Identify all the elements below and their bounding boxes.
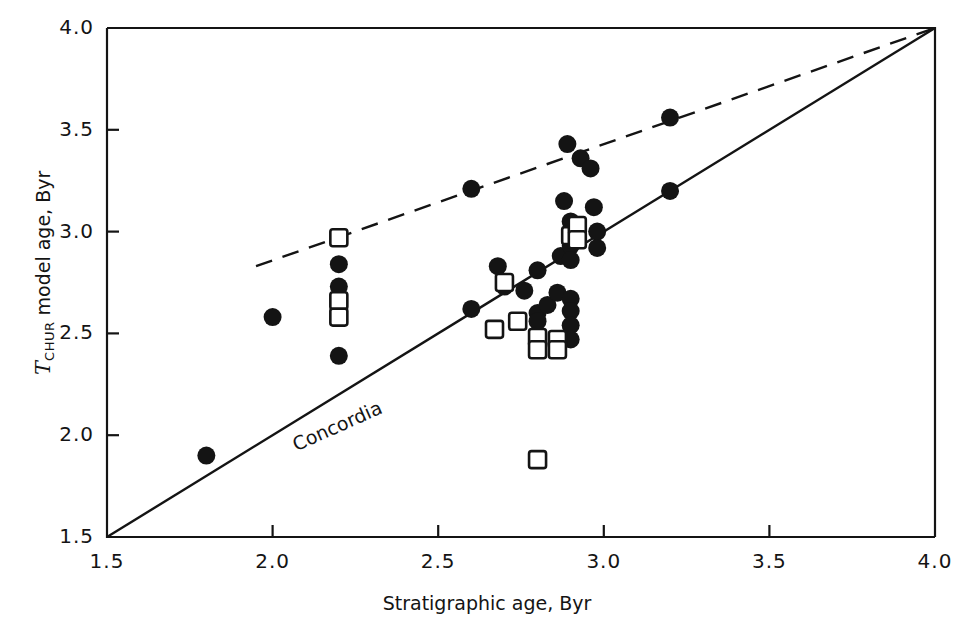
data-point-circle [582, 159, 600, 177]
data-point-circle [562, 251, 580, 269]
data-point-circle [330, 255, 348, 273]
data-point-square [330, 309, 347, 326]
data-point-circle [661, 182, 679, 200]
data-point-circle [197, 447, 215, 465]
data-point-circle [661, 109, 679, 127]
plot-canvas [0, 0, 974, 630]
data-point-circle [264, 308, 282, 326]
y-axis-label-wrap: TCHUR model age, Byr [31, 43, 57, 503]
data-point-circle [529, 312, 547, 330]
x-tick-label: 1.5 [67, 549, 147, 573]
data-point-circle [515, 282, 533, 300]
data-point-circle [489, 257, 507, 275]
data-point-circle [462, 300, 480, 318]
y-tick-label: 4.0 [18, 15, 94, 39]
x-tick-label: 3.5 [729, 549, 809, 573]
x-tick-label: 2.5 [398, 549, 478, 573]
data-point-circle [462, 180, 480, 198]
data-point-square [496, 274, 513, 291]
data-point-circle [588, 239, 606, 257]
data-point-circle [555, 192, 573, 210]
data-point-square [529, 451, 546, 468]
x-tick-label: 4.0 [895, 549, 974, 573]
y-axis-label-rest: model age, Byr [32, 171, 54, 322]
y-axis-label-subscript: CHUR [42, 322, 57, 361]
data-point-circle [558, 135, 576, 153]
x-tick-label: 3.0 [564, 549, 644, 573]
y-axis-label: TCHUR model age, Byr [32, 171, 54, 375]
data-point-square [330, 292, 347, 309]
x-axis-label: Stratigraphic age, Byr [0, 592, 974, 614]
data-point-square [509, 313, 526, 330]
data-point-circle [529, 261, 547, 279]
data-point-circle [585, 198, 603, 216]
data-point-square [486, 321, 503, 338]
data-points [197, 109, 679, 469]
data-point-circle [330, 347, 348, 365]
data-point-square [549, 341, 566, 358]
y-axis-label-symbol: T [31, 361, 55, 375]
x-tick-label: 2.0 [233, 549, 313, 573]
data-point-square [330, 229, 347, 246]
figure-scatter-plot: 1.52.02.53.03.54.01.52.02.53.03.54.0 Con… [0, 0, 974, 630]
y-tick-label: 1.5 [18, 524, 94, 548]
data-point-circle [588, 223, 606, 241]
data-point-square [569, 231, 586, 248]
data-point-square [529, 341, 546, 358]
